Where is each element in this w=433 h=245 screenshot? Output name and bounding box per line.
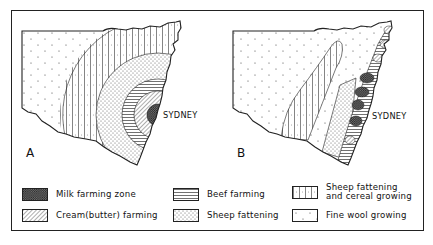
legend-item-beef: Beef farming: [173, 188, 265, 201]
legend-item-cream: Cream(butter) farming: [22, 209, 158, 222]
legend-label: Beef farming: [207, 190, 265, 199]
legend-item-milk: Milk farming zone: [22, 188, 136, 201]
legend-label: Sheep fattening and cereal growing: [326, 183, 412, 201]
sheep-cereal-swatch-icon: [292, 186, 318, 199]
legend-label: Cream(butter) farming: [56, 211, 158, 220]
sheep-fattening-swatch-icon: [173, 209, 199, 222]
map-b-label: B: [237, 146, 245, 160]
cream-swatch-icon: [22, 209, 48, 222]
legend-label: Fine wool growing: [326, 211, 407, 220]
legend-label: Milk farming zone: [56, 190, 136, 199]
map-b-city-label: SYDNEY: [372, 111, 407, 121]
fine-wool-swatch-icon: [292, 209, 318, 222]
map-a-city-label: SYDNEY: [163, 110, 198, 120]
map-a-label: A: [26, 146, 34, 160]
map-a: [20, 17, 256, 213]
legend-item-sheep-cereal: Sheep fattening and cereal growing: [292, 183, 412, 201]
beef-swatch-icon: [173, 188, 199, 201]
milk-swatch-icon: [22, 188, 48, 201]
legend-label: Sheep fattening: [207, 211, 279, 220]
map-b: [230, 18, 400, 168]
legend-item-sheep-fattening: Sheep fattening: [173, 209, 279, 222]
legend: Milk farming zone Cream(butter) farming …: [22, 185, 422, 229]
legend-item-fine-wool: Fine wool growing: [292, 209, 407, 222]
